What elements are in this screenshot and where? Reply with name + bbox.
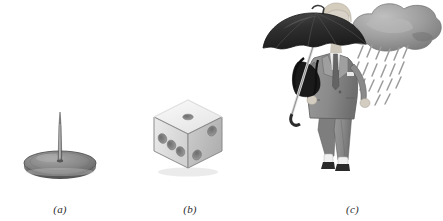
umbrella-handle bbox=[291, 114, 300, 125]
die-illustration bbox=[130, 0, 250, 190]
thumbtack-illustration bbox=[0, 0, 120, 190]
right-hand bbox=[360, 99, 370, 108]
caption-a: (a) bbox=[0, 203, 120, 215]
shoe-right bbox=[335, 164, 350, 171]
woman-umbrella-illustration bbox=[262, 0, 443, 190]
sock-right bbox=[338, 157, 348, 165]
umbrella-tip-hook bbox=[312, 5, 324, 9]
caption-c: (c) bbox=[262, 203, 443, 215]
jacket-button bbox=[339, 91, 342, 94]
pocket-square bbox=[347, 72, 354, 76]
die-shadow bbox=[158, 168, 218, 177]
tack-shaft-seam bbox=[57, 160, 63, 163]
caption-b: (b) bbox=[130, 203, 250, 215]
figure-container: (a) bbox=[0, 0, 443, 221]
shoe-left bbox=[321, 162, 335, 169]
tack-pin-shaft bbox=[58, 112, 62, 161]
die-pip-top-1 bbox=[183, 114, 193, 120]
panel-a-thumbtack: (a) bbox=[0, 0, 120, 221]
tack-shadow bbox=[26, 168, 94, 176]
panel-c-woman-umbrella: (c) bbox=[262, 0, 443, 221]
panel-b-die: (b) bbox=[130, 0, 250, 221]
sock-left bbox=[324, 154, 333, 163]
